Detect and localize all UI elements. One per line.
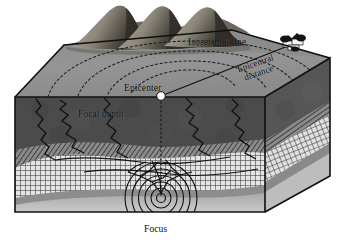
building-mass-right — [296, 35, 306, 42]
focal-depth-label: Focal depth — [78, 109, 124, 119]
earthquake-block-diagram: Isoseismal line Epicenter Epicentral dis… — [0, 0, 345, 243]
isoseismal-line-label: Isoseismal line — [188, 37, 246, 47]
building-mass-left — [280, 36, 290, 43]
cross-section-front — [15, 97, 265, 234]
focus-label: Focus — [144, 224, 167, 234]
epicenter-label: Epicenter — [124, 83, 161, 93]
diagram-canvas — [0, 0, 345, 243]
